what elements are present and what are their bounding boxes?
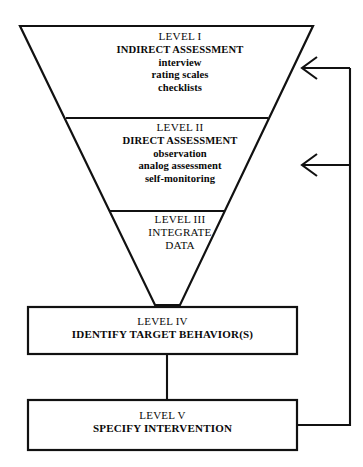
level-2-text-block: LEVEL II DIRECT ASSESSMENT observation a… [60,122,300,184]
level-3-text-block: LEVEL III INTEGRATE DATA [100,214,260,252]
level-1-number: LEVEL I [40,31,320,43]
level-3-name: INTEGRATE [100,227,260,239]
level-1-text-block: LEVEL I INDIRECT ASSESSMENT interview ra… [40,31,320,93]
feedback-spine [297,68,350,425]
level-1-name: INDIRECT ASSESSMENT [40,44,320,55]
level-2-name: DIRECT ASSESSMENT [60,135,300,146]
level-5-text-block: LEVEL V SPECIFY INTERVENTION [28,410,297,434]
level-2-method-self-monitoring: self-monitoring [60,173,300,184]
assessment-funnel-diagram: LEVEL I INDIRECT ASSESSMENT interview ra… [0,0,363,467]
level-5-name: SPECIFY INTERVENTION [28,423,297,434]
level-2-number: LEVEL II [60,122,300,134]
level-5-number: LEVEL V [28,410,297,421]
level-3-name-line2: DATA [100,240,260,252]
level-4-text-block: LEVEL IV IDENTIFY TARGET BEHAVIOR(S) [28,316,297,340]
level-3-number: LEVEL III [100,214,260,226]
level-4-name: IDENTIFY TARGET BEHAVIOR(S) [28,329,297,340]
level-2-method-analog-assessment: analog assessment [60,160,300,171]
level-1-method-checklists: checklists [40,82,320,93]
level-1-method-interview: interview [40,57,320,68]
level-4-number: LEVEL IV [28,316,297,327]
level-1-method-rating-scales: rating scales [40,69,320,80]
level-2-method-observation: observation [60,148,300,159]
